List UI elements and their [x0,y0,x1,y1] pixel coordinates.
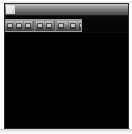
toolbar-separator-1 [33,21,35,31]
application-window [4,3,129,129]
minimize-button[interactable] [107,7,113,13]
toolbar-button-1[interactable] [6,21,14,31]
desktop-bottom-edge [0,129,132,134]
toolbar-button-7[interactable] [69,21,77,31]
toolbar-button-8[interactable] [78,21,82,31]
content-canvas[interactable] [6,34,127,127]
screenshot-root [0,0,132,134]
toolbar-button-2[interactable] [15,21,23,31]
toolbar-separator-2 [54,21,56,31]
toolbar-button-6[interactable] [57,21,68,31]
maximize-button[interactable] [114,7,120,13]
toolbar[interactable] [5,19,82,32]
desktop-right-margin [129,0,132,134]
toolbar-button-3[interactable] [24,21,32,31]
close-button[interactable] [121,7,127,13]
toolbar-button-5[interactable] [45,21,53,31]
title-bar[interactable] [5,4,128,16]
toolbar-button-4[interactable] [36,21,44,31]
application-icon [6,5,15,14]
content-area[interactable] [5,32,128,128]
